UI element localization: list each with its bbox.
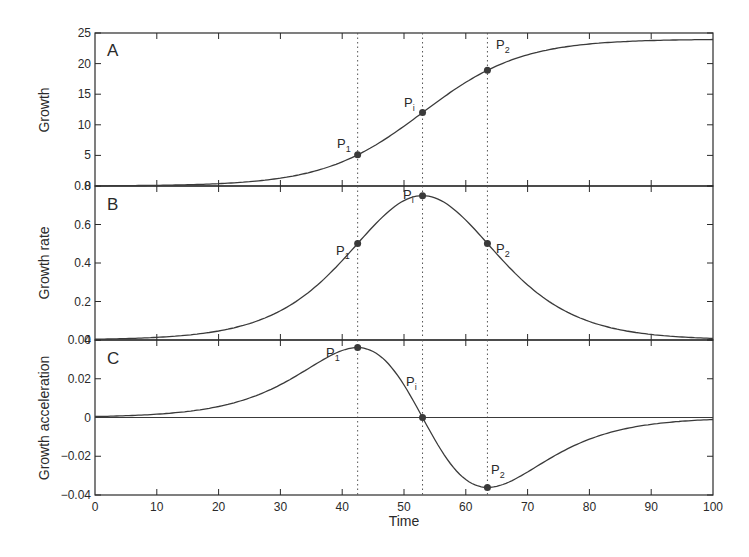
label-p1-b: P1: [336, 243, 350, 261]
point-pi: [419, 414, 426, 421]
growth-figure: 051015202500.20.40.60.8−0.04−0.0200.020.…: [0, 0, 749, 557]
label-p1-c: P1: [326, 345, 340, 363]
x-tick-label: 40: [336, 500, 350, 514]
x-tick-label: 10: [150, 500, 164, 514]
y-tick-label: 0: [84, 411, 91, 425]
tick-labels: 051015202500.20.40.60.8−0.04−0.0200.020.…: [61, 26, 724, 514]
x-tick-label: 60: [459, 500, 473, 514]
x-tick-label: 90: [645, 500, 659, 514]
point-pi: [419, 192, 426, 199]
x-tick-label: 0: [92, 500, 99, 514]
marker-guide-lines: [358, 33, 488, 495]
y-tick-label: −0.02: [61, 449, 92, 463]
ylabel-growth-rate: Growth rate: [36, 226, 52, 299]
label-p2-a: P2: [496, 37, 510, 55]
x-tick-label: 100: [703, 500, 723, 514]
y-tick-label: 20: [78, 57, 92, 71]
y-tick-label: 5: [84, 148, 91, 162]
y-tick-label: 15: [78, 87, 92, 101]
x-tick-label: 30: [274, 500, 288, 514]
label-pi-b: Pi: [403, 187, 414, 205]
label-p1-a: P1: [337, 136, 351, 154]
marker-points: [354, 67, 491, 491]
curve-panel-b: [95, 196, 713, 340]
y-tick-label: 0.8: [74, 179, 91, 193]
y-tick-label: −0.04: [61, 488, 92, 502]
ylabel-growth: Growth: [36, 87, 52, 132]
label-p2-c: P2: [491, 462, 505, 480]
point-p2: [484, 240, 491, 247]
panel-label-b: B: [107, 195, 118, 214]
panel-label-c: C: [107, 349, 119, 368]
panel-label-a: A: [107, 41, 119, 60]
y-tick-label: 0.02: [68, 372, 92, 386]
point-labels: P1 Pi P2 P1 Pi P2 P1 Pi P2: [326, 37, 510, 480]
x-tick-label: 50: [397, 500, 411, 514]
x-tick-label: 20: [212, 500, 226, 514]
point-p2: [484, 67, 491, 74]
y-tick-label: 0.04: [68, 333, 92, 347]
point-p1: [354, 344, 361, 351]
y-tick-label: 0.4: [74, 256, 91, 270]
panel-b-frame: [95, 186, 713, 340]
x-tick-label: 70: [521, 500, 535, 514]
label-pi-a: Pi: [404, 95, 415, 113]
point-p1: [354, 151, 361, 158]
y-tick-label: 10: [78, 118, 92, 132]
xlabel-time: Time: [389, 513, 420, 529]
y-tick-label: 0.2: [74, 295, 91, 309]
x-tick-label: 80: [583, 500, 597, 514]
point-pi: [419, 109, 426, 116]
y-tick-label: 0.6: [74, 218, 91, 232]
label-pi-c: Pi: [406, 374, 417, 392]
point-p2: [484, 484, 491, 491]
ylabel-growth-acceleration: Growth acceleration: [36, 356, 52, 481]
curve-panel-a: [95, 40, 713, 186]
point-p1: [354, 240, 361, 247]
y-tick-label: 25: [78, 26, 92, 40]
